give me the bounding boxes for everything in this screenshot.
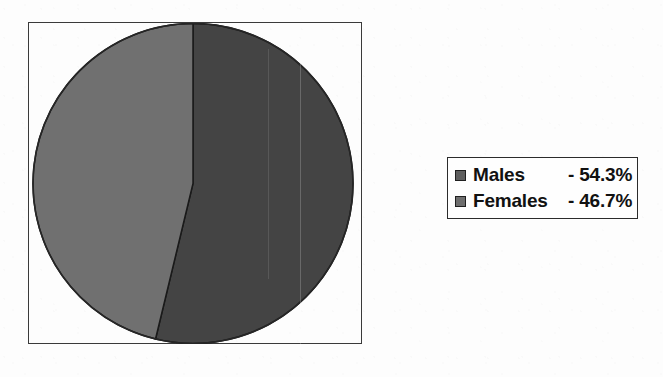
chart-legend: Males - 54.3% Females - 46.7% [447, 157, 638, 219]
legend-label-females: Females [473, 190, 568, 212]
pie-chart-figure: Males - 54.3% Females - 46.7% [0, 0, 663, 377]
pie-svg [32, 23, 354, 344]
legend-swatch-icon-females [455, 196, 466, 207]
legend-value-females: - 46.7% [568, 190, 632, 212]
legend-item-males: Males - 54.3% [455, 162, 631, 188]
legend-label-males: Males [473, 164, 568, 186]
pie-graphic [32, 23, 354, 344]
legend-value-males: - 54.3% [568, 164, 632, 186]
legend-item-females: Females - 46.7% [455, 188, 631, 214]
legend-swatch-icon-males [455, 170, 466, 181]
